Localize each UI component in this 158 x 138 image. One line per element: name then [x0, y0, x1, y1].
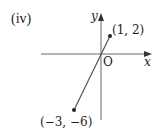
point-neg3-neg6 — [72, 108, 76, 112]
coordinate-diagram: y x O (1, 2) (−3, −6) — [0, 0, 158, 138]
point-label-1-2: (1, 2) — [112, 23, 144, 37]
y-axis-label: y — [90, 9, 98, 23]
y-axis-arrow-icon — [98, 13, 104, 21]
point-label-neg3-neg6: (−3, −6) — [40, 115, 92, 129]
origin-label: O — [103, 55, 113, 69]
x-axis-label: x — [144, 55, 151, 69]
plotted-line — [74, 36, 110, 110]
